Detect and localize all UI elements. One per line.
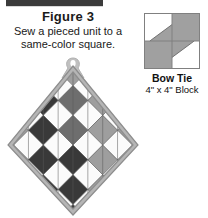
quilt-diamond-svg bbox=[2, 50, 142, 218]
quilt-patch-field bbox=[2, 50, 142, 218]
figure-description-line-1: Sew a pieced unit to a bbox=[0, 25, 136, 38]
bow-tie-block-size: 4" x 4" Block bbox=[141, 84, 203, 95]
figure-caption: Figure 3 Sew a pieced unit to a same-col… bbox=[0, 9, 136, 50]
bow-tie-block-icon bbox=[144, 13, 200, 69]
figure-description: Sew a pieced unit to a same-color square… bbox=[0, 24, 136, 50]
top-dark-bar bbox=[6, 0, 103, 7]
page-title: Figure 3 bbox=[0, 9, 136, 24]
bow-tie-block-name: Bow Tie bbox=[141, 69, 203, 84]
bow-tie-block-panel: Bow Tie 4" x 4" Block bbox=[141, 13, 203, 95]
quilt-illustration bbox=[2, 50, 142, 218]
patch-grid bbox=[2, 56, 142, 218]
figure-description-line-2: same-color square. bbox=[0, 38, 136, 51]
